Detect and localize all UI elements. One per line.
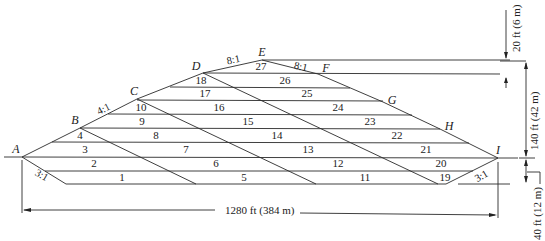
width-dimension-label: 1280 ft (384 m) [225, 204, 295, 217]
cell-27: 27 [256, 60, 268, 72]
point-A: A [11, 142, 20, 156]
depth-label: 40 ft (12 m) [531, 187, 544, 240]
cell-21: 21 [421, 143, 432, 155]
cell-26: 26 [280, 74, 292, 86]
cell-20: 20 [436, 157, 448, 169]
depth-label-bracket [527, 172, 540, 184]
point-I: I [495, 143, 501, 157]
slope-label-DE: 8:1 [226, 53, 241, 67]
lift-line-E [203, 73, 500, 74]
cell-9: 9 [139, 115, 145, 127]
lift-line-9 [80, 128, 440, 129]
point-B: B [71, 113, 79, 127]
arrow-up-icon [504, 77, 508, 83]
point-H: H [444, 119, 455, 133]
top-offset-label: 20 ft (6 m) [510, 4, 523, 52]
cell-4: 4 [77, 129, 83, 141]
cell-15: 15 [243, 115, 255, 127]
lift-line-4 [52, 142, 469, 143]
cell-3: 3 [82, 143, 88, 155]
arrow-down-icon [504, 52, 508, 59]
arrow-down-icon [524, 150, 528, 157]
width-dim-line-right [300, 213, 495, 215]
cell-16: 16 [214, 101, 226, 113]
slope-label-EF: 8:1 [293, 60, 308, 74]
arrow-down-icon [524, 176, 528, 183]
cell-13: 13 [303, 143, 315, 155]
arrow-up-icon [524, 159, 528, 166]
cell-22: 22 [392, 129, 403, 141]
point-D: D [191, 59, 201, 73]
lift-line-18 [170, 87, 350, 88]
cell-7: 7 [183, 143, 189, 155]
slope-label-right-base: 3:1 [473, 168, 490, 184]
cell-14: 14 [272, 129, 284, 141]
cell-8: 8 [153, 129, 159, 141]
cell-23: 23 [365, 115, 377, 127]
cell-12: 12 [333, 157, 344, 169]
cell-6: 6 [213, 157, 219, 169]
point-G: G [388, 93, 397, 107]
point-F: F [321, 61, 330, 75]
slope-label-left-base: 3:1 [33, 167, 50, 183]
cell-19: 19 [440, 171, 452, 183]
arrow-left-icon [23, 208, 31, 212]
cell-1: 1 [119, 171, 125, 183]
cell-10: 10 [136, 101, 148, 113]
cell-11: 11 [360, 171, 371, 183]
cell-18: 18 [196, 74, 208, 86]
cell-17: 17 [200, 87, 212, 99]
cell-24: 24 [333, 101, 345, 113]
diagonal-B [80, 128, 196, 184]
point-C: C [130, 84, 139, 98]
height-label: 140 ft (42 m) [528, 91, 541, 150]
point-E: E [257, 45, 266, 59]
arrow-up-icon [524, 62, 528, 69]
cell-5: 5 [241, 171, 247, 183]
cell-25: 25 [302, 87, 314, 99]
landfill-cell-diagram: A B C D E F G H I 4:1 8:1 8:1 3:1 3:1 1 … [0, 0, 545, 241]
arrow-right-icon [489, 213, 497, 217]
cell-2: 2 [91, 157, 97, 169]
